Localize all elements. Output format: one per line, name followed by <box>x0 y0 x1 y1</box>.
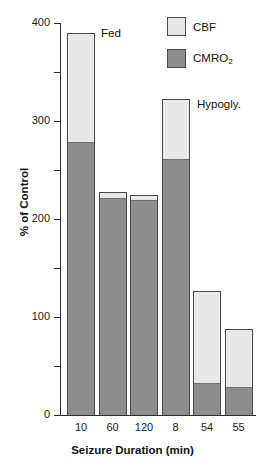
y-tick-350 <box>54 72 60 73</box>
x-tick-label-55: 55 <box>219 421 259 433</box>
legend-item-cbf: CBF <box>167 17 233 36</box>
y-tick-label-0: 0 <box>0 409 50 420</box>
legend-label-cmro2-subscript: 2 <box>228 57 232 66</box>
legend-label-cmro2-text: CMRO <box>193 52 228 64</box>
y-tick-400 <box>54 23 60 24</box>
bar-segment-cmro2-120 <box>131 200 157 415</box>
y-tick-150 <box>54 268 60 269</box>
bar-120 <box>130 195 158 416</box>
y-tick-50 <box>54 366 60 367</box>
bar-segment-cbf-54 <box>194 292 220 383</box>
bar-segment-cbf-10 <box>68 34 94 142</box>
bar-55 <box>225 329 253 416</box>
bar-54 <box>193 291 221 416</box>
y-tick-100 <box>54 317 60 318</box>
legend-swatch-cbf-icon <box>167 17 186 36</box>
y-tick-200 <box>54 219 60 220</box>
y-axis-line <box>60 23 61 416</box>
annotation-fed: Fed <box>101 27 121 39</box>
legend: CBF CMRO2 <box>167 17 233 81</box>
bar-segment-divider-60 <box>100 198 126 199</box>
bar-segment-cmro2-55 <box>226 387 252 415</box>
bar-60 <box>99 192 127 416</box>
bar-segment-cbf-55 <box>226 330 252 387</box>
bar-segment-divider-55 <box>226 387 252 388</box>
bar-10 <box>67 33 95 416</box>
bar-segment-cbf-8 <box>163 100 189 159</box>
bar-segment-divider-10 <box>68 142 94 143</box>
legend-label-cmro2: CMRO2 <box>193 52 233 66</box>
y-tick-250 <box>54 170 60 171</box>
x-axis-line <box>60 415 256 416</box>
bar-segment-divider-120 <box>131 200 157 201</box>
y-tick-label-100: 100 <box>0 311 50 322</box>
bar-8 <box>162 99 190 416</box>
y-tick-label-300: 300 <box>0 115 50 126</box>
bar-segment-cmro2-60 <box>100 198 126 415</box>
bar-segment-divider-8 <box>163 159 189 160</box>
legend-item-cmro2: CMRO2 <box>167 49 233 68</box>
y-tick-300 <box>54 121 60 122</box>
bar-segment-divider-54 <box>194 383 220 384</box>
x-axis-title: Seizure Duration (min) <box>0 444 265 456</box>
stacked-bar-chart: 4003002001000 % of Control 106012085455 … <box>0 0 265 468</box>
y-axis-title: % of Control <box>18 147 30 257</box>
bar-segment-cmro2-54 <box>194 383 220 415</box>
bar-segment-cmro2-8 <box>163 159 189 415</box>
bar-segment-cmro2-10 <box>68 142 94 415</box>
y-tick-label-400: 400 <box>0 17 50 28</box>
legend-swatch-cmro2-icon <box>167 49 186 68</box>
annotation-hypogly: Hypogly. <box>197 98 241 110</box>
legend-label-cbf: CBF <box>193 21 216 33</box>
